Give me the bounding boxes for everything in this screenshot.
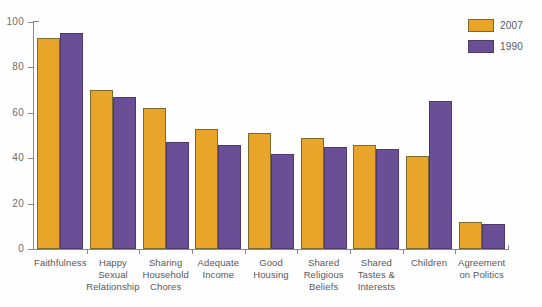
x-axis-group-tick	[350, 249, 351, 254]
x-axis-label-line: Sexual	[98, 269, 128, 280]
x-axis-label-line: Good	[259, 257, 283, 268]
legend-item-1990[interactable]: 1990	[468, 38, 523, 55]
bar-1990-4[interactable]	[271, 154, 294, 249]
x-axis-group-tick	[192, 249, 193, 254]
x-axis-group-tick	[87, 249, 88, 254]
bar-chart: 100806040200 FaithfulnessHappySexualRela…	[0, 0, 542, 307]
x-axis-label-line: Chores	[150, 281, 181, 292]
bar-2007-0[interactable]	[37, 38, 60, 249]
x-axis-label-line: Beliefs	[309, 281, 338, 292]
legend-swatch-1990	[468, 40, 494, 53]
y-axis-tick-label: 40	[0, 153, 24, 163]
x-axis-label-8: Agreementon Politics	[449, 257, 514, 281]
x-axis-label-line: Interests	[358, 281, 395, 292]
x-axis-label-line: Shared	[361, 257, 392, 268]
x-axis-group-tick	[245, 249, 246, 254]
x-axis-label-line: Adequate	[198, 257, 239, 268]
bar-2007-5[interactable]	[301, 138, 324, 249]
x-axis-label-line: Income	[202, 269, 234, 280]
bar-2007-6[interactable]	[353, 145, 376, 249]
x-axis-group-tick	[455, 249, 456, 254]
bar-2007-7[interactable]	[406, 156, 429, 249]
y-axis-tick-label: 100	[0, 17, 24, 27]
bar-1990-0[interactable]	[60, 33, 83, 249]
y-axis-tick-label: 20	[0, 199, 24, 209]
x-axis-label-line: Shared	[308, 257, 339, 268]
x-axis-label-line: Faithfulness	[34, 257, 86, 268]
y-axis-tick-label: 0	[0, 244, 24, 254]
bar-2007-2[interactable]	[143, 108, 166, 249]
bar-2007-3[interactable]	[195, 129, 218, 249]
x-axis-label-line: Relationship	[86, 281, 139, 292]
y-axis-tick	[28, 249, 34, 250]
legend-swatch-2007	[468, 19, 494, 32]
x-axis-label-line: Religious	[304, 269, 344, 280]
bar-2007-8[interactable]	[459, 222, 482, 249]
x-axis-line	[33, 249, 509, 250]
bar-2007-4[interactable]	[248, 133, 271, 249]
y-axis-tick-label: 80	[0, 62, 24, 72]
bar-1990-5[interactable]	[324, 147, 347, 249]
legend: 2007 1990	[468, 17, 523, 59]
x-axis-label-line: on Politics	[459, 269, 503, 280]
x-axis-group-tick	[139, 249, 140, 254]
legend-label-1990: 1990	[500, 41, 523, 52]
x-axis-label-line: Happy	[99, 257, 127, 268]
x-axis-label-line: Agreement	[458, 257, 505, 268]
legend-label-2007: 2007	[500, 20, 523, 31]
y-axis-tick-label: 60	[0, 108, 24, 118]
bar-1990-1[interactable]	[113, 97, 136, 249]
bar-1990-7[interactable]	[429, 101, 452, 249]
x-axis-group-tick	[403, 249, 404, 254]
x-axis-label-line: Household	[142, 269, 188, 280]
bar-2007-1[interactable]	[90, 90, 113, 249]
legend-item-2007[interactable]: 2007	[468, 17, 523, 34]
x-axis-label-line: Sharing	[149, 257, 182, 268]
plot-area	[34, 22, 508, 249]
x-axis-right-cap	[508, 245, 509, 250]
x-axis-group-tick	[297, 249, 298, 254]
bar-1990-8[interactable]	[482, 224, 505, 249]
bar-1990-2[interactable]	[166, 142, 189, 249]
bar-1990-3[interactable]	[218, 145, 241, 249]
x-axis-label-line: Housing	[253, 269, 289, 280]
x-axis-label-line: Tastes &	[358, 269, 395, 280]
bar-1990-6[interactable]	[376, 149, 399, 249]
x-axis-label-line: Children	[411, 257, 447, 268]
